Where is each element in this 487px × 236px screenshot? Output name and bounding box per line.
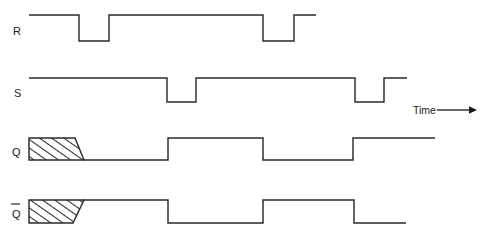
signal-label-qbar: Q [12, 208, 21, 220]
signal-label-r: R [13, 25, 21, 37]
time-axis-annotation: Time [413, 104, 477, 116]
signal-row-qbar: Q [11, 200, 406, 223]
indeterminate-region-qbar [29, 200, 84, 223]
signal-row-q: Q [12, 138, 435, 160]
signal-row-s: S [14, 78, 407, 102]
time-label: Time [413, 104, 436, 116]
time-arrow-icon [469, 106, 477, 114]
indeterminate-region-q [29, 138, 84, 160]
waveform-q [84, 138, 435, 160]
timing-diagram-canvas: R S Time Q Q [0, 0, 487, 236]
waveform-s [29, 78, 407, 102]
waveform-qbar [84, 200, 406, 223]
signal-label-s: S [14, 87, 22, 99]
timing-diagram-figure: R S Time Q Q [0, 0, 487, 236]
signal-row-r: R [13, 15, 316, 41]
waveform-r [29, 15, 316, 41]
signal-label-q: Q [12, 146, 21, 158]
